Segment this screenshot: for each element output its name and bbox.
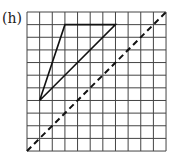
mirror-line <box>27 12 166 151</box>
grid-diagram <box>0 0 174 160</box>
